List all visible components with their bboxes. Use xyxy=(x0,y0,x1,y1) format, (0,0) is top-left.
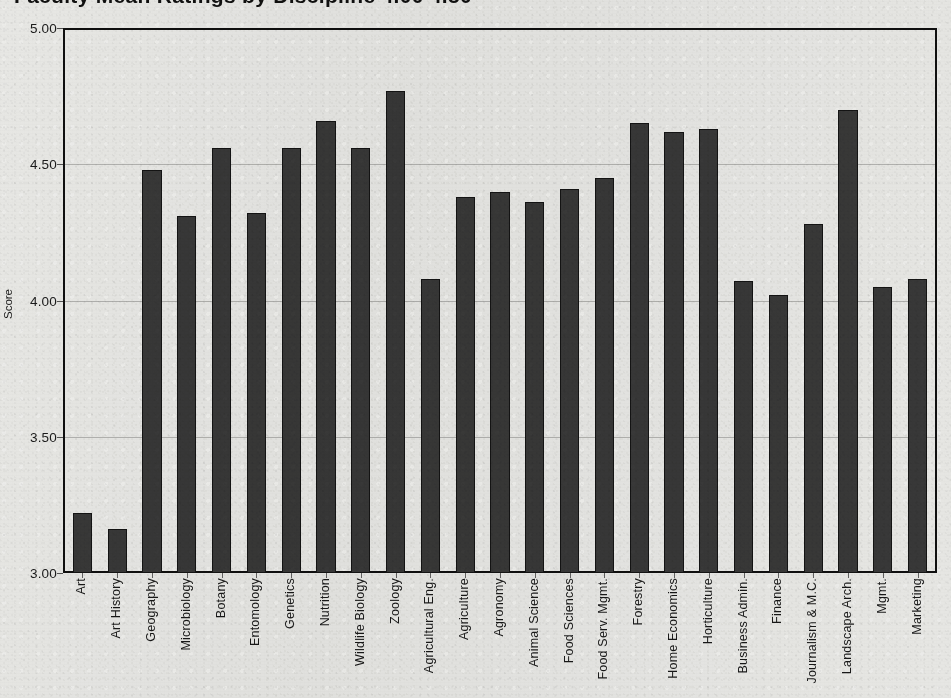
bar xyxy=(769,295,788,573)
chart-title: Faculty Mean Ratings by Discipline 4.00 … xyxy=(0,0,951,8)
x-axis-tick-label: Wildlife Biology xyxy=(354,578,367,666)
bar xyxy=(456,197,475,573)
x-axis-tick-label: Geography xyxy=(145,578,158,642)
bar xyxy=(421,279,440,573)
bar xyxy=(490,192,509,574)
x-axis-tick-label: Agronomy xyxy=(493,578,506,637)
x-axis-tick-label: Food Serv. Mgmt. xyxy=(597,578,610,680)
bar xyxy=(560,189,579,573)
x-axis-tick-label: Forestry xyxy=(632,578,645,625)
x-axis-tick-labels: ArtArt HistoryGeographyMicrobiologyBotan… xyxy=(65,578,935,698)
x-axis-tick-label: Agriculture xyxy=(458,578,471,640)
bar xyxy=(212,148,231,573)
bar xyxy=(177,216,196,573)
bar xyxy=(873,287,892,573)
y-axis-tick-mark xyxy=(57,301,63,302)
bar xyxy=(908,279,927,573)
bar xyxy=(247,213,266,573)
y-axis-tick-mark xyxy=(57,164,63,165)
y-axis-tick-mark xyxy=(57,573,63,574)
y-axis-tick-labels: 5.004.504.003.503.00 xyxy=(0,0,57,698)
y-axis-tick-label: 3.00 xyxy=(11,566,57,581)
x-axis-tick-label: Art xyxy=(75,578,88,595)
bar xyxy=(699,129,718,573)
bar xyxy=(595,178,614,573)
bar xyxy=(838,110,857,573)
x-axis-tick-label: Mgmt. xyxy=(876,578,889,614)
bar xyxy=(664,132,683,573)
y-axis-tick-mark xyxy=(57,28,63,29)
bar xyxy=(108,529,127,573)
x-axis-tick-label: Food Sciences xyxy=(563,578,576,663)
bar xyxy=(351,148,370,573)
x-axis-tick-label: Nutrition xyxy=(319,578,332,626)
bar xyxy=(734,281,753,573)
x-axis-tick-label: Microbiology xyxy=(180,578,193,651)
bar xyxy=(142,170,161,573)
x-axis-tick-label: Genetics xyxy=(284,578,297,629)
x-axis-tick-label: Landscape Arch. xyxy=(841,578,854,674)
y-axis-tick-mark xyxy=(57,437,63,438)
x-axis-tick-label: Marketing xyxy=(911,578,924,635)
y-axis-tick-label: 5.00 xyxy=(11,21,57,36)
x-axis-tick-label: Entomology xyxy=(249,578,262,646)
x-axis-tick-label: Zoology xyxy=(389,578,402,624)
bar xyxy=(386,91,405,573)
x-axis-tick-label: Journalism & M.C. xyxy=(806,578,819,684)
x-axis-tick-label: Business Admin. xyxy=(737,578,750,673)
x-axis-tick-label: Botany xyxy=(215,578,228,618)
bar xyxy=(282,148,301,573)
bar xyxy=(630,123,649,573)
y-axis-tick-label: 4.00 xyxy=(11,293,57,308)
x-axis-tick-label: Finance xyxy=(771,578,784,624)
chart-page: Faculty Mean Ratings by Discipline 4.00 … xyxy=(0,0,951,698)
bar xyxy=(73,513,92,573)
x-axis-tick-label: Home Economics xyxy=(667,578,680,679)
bars-layer xyxy=(65,28,935,573)
x-axis-tick-label: Horticulture xyxy=(702,578,715,644)
y-axis-title: Score xyxy=(2,289,14,319)
bar xyxy=(316,121,335,573)
bar xyxy=(525,202,544,573)
chart-title-clip: Faculty Mean Ratings by Discipline 4.00 … xyxy=(0,0,951,8)
x-axis-tick-label: Art History xyxy=(110,578,123,639)
bar xyxy=(804,224,823,573)
y-axis-tick-label: 3.50 xyxy=(11,429,57,444)
y-axis-tick-label: 4.50 xyxy=(11,157,57,172)
x-axis-tick-label: Animal Science xyxy=(528,578,541,667)
x-axis-tick-label: Agricultural Eng. xyxy=(423,578,436,673)
